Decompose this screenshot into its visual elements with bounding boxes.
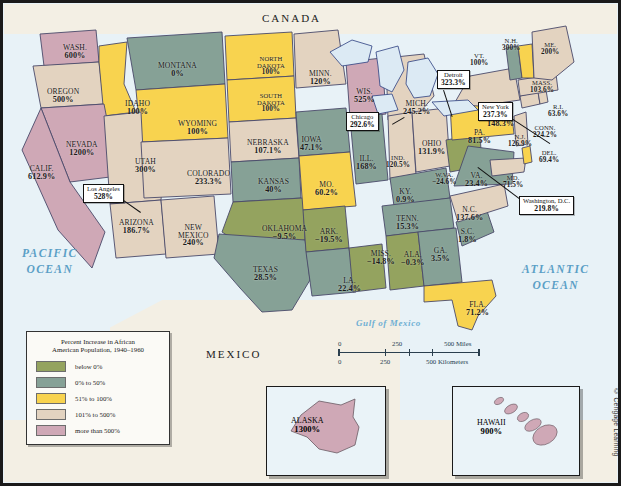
map-frame [0, 0, 621, 486]
map-figure: CANADAMEXICO PACIFICOCEANATLANTICOCEAN G… [0, 0, 621, 486]
